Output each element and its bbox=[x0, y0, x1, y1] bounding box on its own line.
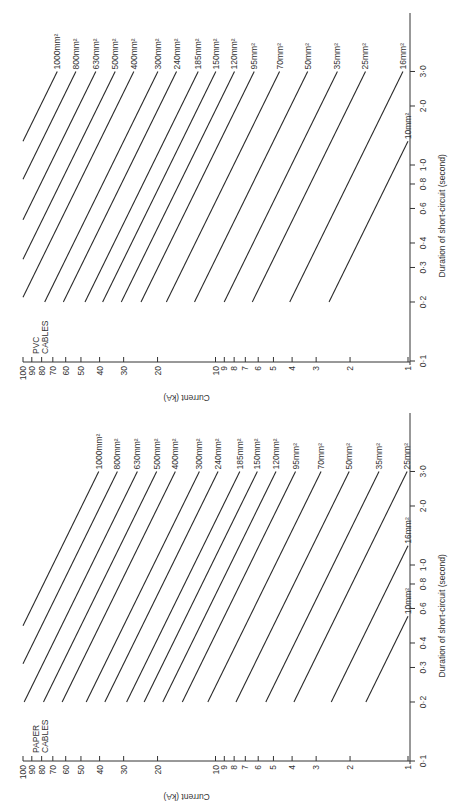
series-label: 630mm² bbox=[132, 438, 142, 469]
series-label: 70mm² bbox=[275, 43, 285, 70]
current-tick-label: 2 bbox=[345, 366, 355, 371]
duration-tick-label: 0·1 bbox=[418, 355, 428, 368]
current-tick-label: 50 bbox=[76, 765, 86, 775]
series-label: 50mm² bbox=[303, 43, 313, 70]
current-tick-label: 6 bbox=[253, 366, 263, 371]
current-tick-label: 9 bbox=[219, 765, 229, 770]
current-tick-label: 5 bbox=[268, 765, 278, 770]
pvc-cables-chart: 123456789102030405060708090100Current (k… bbox=[18, 13, 447, 403]
current-tick-label: 60 bbox=[61, 765, 71, 775]
current-tick-label: 9 bbox=[219, 366, 229, 371]
panel-title: PVCCABLES bbox=[31, 320, 50, 354]
series-label: 800mm² bbox=[112, 438, 122, 469]
current-tick-label: 3 bbox=[311, 765, 321, 770]
current-tick-label: 4 bbox=[287, 366, 297, 371]
current-tick-label: 1 bbox=[403, 366, 413, 371]
current-tick-label: 60 bbox=[61, 366, 71, 376]
series-line-70mm2 bbox=[166, 71, 279, 302]
duration-tick-label: 0·8 bbox=[418, 578, 428, 591]
duration-tick-label: 0·6 bbox=[418, 602, 428, 615]
current-tick-label: 10 bbox=[211, 366, 221, 376]
current-tick-label: 10 bbox=[211, 765, 221, 775]
series-label: 150mm² bbox=[252, 438, 262, 469]
series-line-300mm2 bbox=[45, 71, 158, 302]
panel-title: PAPERCABLES bbox=[31, 719, 50, 753]
current-axis-label: Current (kA) bbox=[163, 393, 209, 403]
current-tick-label: 50 bbox=[76, 366, 86, 376]
series-label: 95mm² bbox=[249, 43, 259, 70]
paper-cables-chart: 123456789102030405060708090100Current (k… bbox=[18, 413, 447, 802]
series-label: 800mm² bbox=[71, 38, 81, 69]
series-label: 120mm² bbox=[271, 438, 281, 469]
current-tick-label: 7 bbox=[240, 765, 250, 770]
series-label: 300mm² bbox=[153, 38, 163, 69]
current-tick-label: 90 bbox=[27, 765, 37, 775]
series-label: 120mm² bbox=[229, 38, 239, 69]
series-line-25mm2 bbox=[294, 471, 407, 702]
series-line-1000mm2 bbox=[23, 471, 99, 625]
current-axis-label: Current (kA) bbox=[163, 792, 209, 802]
series-line-25mm2 bbox=[252, 71, 365, 302]
series-line-50mm2 bbox=[194, 71, 307, 302]
series-label: 240mm² bbox=[172, 38, 182, 69]
series-line-10mm2 bbox=[366, 616, 408, 702]
current-tick-label: 40 bbox=[95, 765, 105, 775]
current-tick-label: 1 bbox=[403, 765, 413, 770]
series-label: 16mm² bbox=[403, 517, 413, 544]
series-label: 500mm² bbox=[152, 438, 162, 469]
series-line-70mm2 bbox=[208, 471, 321, 702]
series-label: 400mm² bbox=[129, 38, 139, 69]
duration-tick-label: 3·0 bbox=[418, 65, 428, 78]
current-tick-label: 2 bbox=[345, 765, 355, 770]
series-label: 25mm² bbox=[402, 443, 412, 470]
series-label: 35mm² bbox=[374, 443, 384, 470]
series-label: 300mm² bbox=[194, 438, 204, 469]
series-line-185mm2 bbox=[127, 471, 240, 702]
series-line-35mm2 bbox=[266, 471, 379, 702]
current-tick-label: 90 bbox=[27, 366, 37, 376]
current-tick-label: 100 bbox=[18, 765, 28, 779]
current-tick-label: 7 bbox=[240, 366, 250, 371]
duration-tick-label: 2·0 bbox=[418, 100, 428, 113]
current-tick-label: 4 bbox=[287, 765, 297, 770]
series-label: 150mm² bbox=[211, 38, 221, 69]
series-line-185mm2 bbox=[85, 71, 198, 302]
current-tick-label: 100 bbox=[18, 366, 28, 380]
current-tick-label: 30 bbox=[119, 765, 129, 775]
current-tick-label: 8 bbox=[229, 366, 239, 371]
current-tick-label: 30 bbox=[119, 366, 129, 376]
series-line-50mm2 bbox=[236, 471, 349, 702]
current-tick-label: 6 bbox=[253, 765, 263, 770]
series-label: 240mm² bbox=[213, 438, 223, 469]
duration-tick-label: 0·2 bbox=[418, 296, 428, 309]
duration-tick-label: 0·6 bbox=[418, 202, 428, 215]
duration-tick-label: 0·4 bbox=[418, 637, 428, 650]
series-label: 10mm² bbox=[403, 113, 413, 140]
duration-tick-label: 2·0 bbox=[418, 500, 428, 513]
series-line-400mm2 bbox=[62, 471, 175, 702]
panel-title-line: CABLES bbox=[40, 320, 50, 354]
series-label: 70mm² bbox=[316, 443, 326, 470]
series-line-800mm2 bbox=[23, 471, 117, 663]
current-tick-label: 70 bbox=[48, 765, 58, 775]
current-tick-label: 80 bbox=[37, 366, 47, 376]
duration-tick-label: 0·2 bbox=[418, 696, 428, 709]
series-line-120mm2 bbox=[121, 71, 234, 302]
series-label: 630mm² bbox=[91, 38, 101, 69]
duration-tick-label: 0·1 bbox=[418, 755, 428, 768]
current-tick-label: 20 bbox=[153, 366, 163, 376]
series-line-300mm2 bbox=[86, 471, 199, 702]
duration-axis-label: Duration of short-circuit (second) bbox=[437, 154, 447, 277]
series-line-35mm2 bbox=[224, 71, 337, 302]
series-line-95mm2 bbox=[182, 471, 295, 702]
series-line-120mm2 bbox=[163, 471, 276, 702]
series-label: 500mm² bbox=[110, 38, 120, 69]
series-label: 1000mm² bbox=[94, 433, 104, 469]
series-line-630mm2 bbox=[23, 71, 96, 219]
current-tick-label: 40 bbox=[95, 366, 105, 376]
duration-tick-label: 3·0 bbox=[418, 465, 428, 478]
series-label: 95mm² bbox=[291, 443, 301, 470]
series-line-16mm2 bbox=[331, 546, 408, 702]
duration-tick-label: 0·8 bbox=[418, 178, 428, 191]
series-label: 400mm² bbox=[170, 438, 180, 469]
